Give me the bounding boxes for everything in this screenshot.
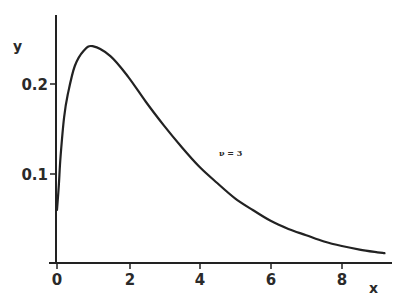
x-axis-label: x bbox=[369, 280, 378, 296]
x-tick-label: 0 bbox=[52, 271, 62, 289]
series-annotation: ν = 3 bbox=[219, 148, 243, 158]
y-tick-label: 0.1 bbox=[21, 166, 48, 184]
y-tick-label: 0.2 bbox=[21, 76, 48, 94]
x-tick-label: 4 bbox=[195, 271, 205, 289]
chart-canvas: 0.2 0.1 0 2 4 6 8 y x ν = 3 bbox=[0, 0, 406, 303]
x-tick-label: 8 bbox=[337, 271, 347, 289]
x-ticks: 0 2 4 6 8 bbox=[52, 263, 347, 289]
y-ticks: 0.2 0.1 bbox=[21, 76, 56, 184]
x-tick-label: 6 bbox=[266, 271, 276, 289]
y-axis-label: y bbox=[13, 38, 22, 54]
x-tick-label: 2 bbox=[125, 271, 135, 289]
